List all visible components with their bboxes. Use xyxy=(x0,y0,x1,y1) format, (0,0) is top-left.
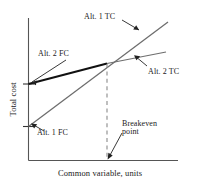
breakeven-point-label: Breakeven point xyxy=(122,120,174,137)
x-axis-label: Common variable, units xyxy=(0,169,200,178)
intercept-label-alt2-fc: Alt. 2 FC xyxy=(38,50,69,58)
chart-canvas xyxy=(0,0,200,188)
alt2-tc-line xyxy=(29,64,108,85)
series-label-alt2-tc: Alt. 2 TC xyxy=(148,68,179,76)
intercept-label-alt1-fc: Alt. 1 FC xyxy=(37,129,68,137)
breakeven-chart-figure: Alt. 1 TC Alt. 2 FC Alt. 2 TC Alt. 1 FC … xyxy=(0,0,200,188)
breakeven-leader-arrowhead xyxy=(108,153,113,160)
y-axis-label: Total cost xyxy=(9,69,18,129)
series-label-alt1-tc: Alt. 1 TC xyxy=(84,13,115,21)
alt1-tc-leader-arrowhead xyxy=(133,25,139,30)
breakeven-leader xyxy=(109,133,122,157)
